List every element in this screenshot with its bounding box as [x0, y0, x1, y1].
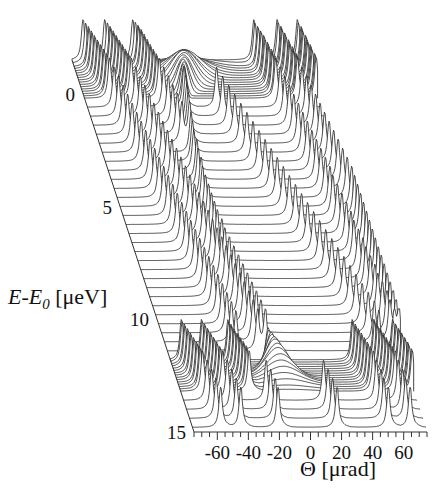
theta-axis-title: Θ [μrad] — [300, 456, 376, 481]
energy-tick-label: 10 — [130, 309, 149, 330]
energy-axis-title-main: E-E — [7, 284, 43, 309]
theta-tick-label: 60 — [394, 442, 413, 463]
theta-tick-label: -60 — [205, 442, 230, 463]
energy-axis-title: E-E0 [μeV] — [7, 284, 107, 312]
trace-group — [72, 20, 426, 428]
theta-tick-label: -40 — [236, 442, 261, 463]
theta-tick-label: -20 — [267, 442, 292, 463]
trace-E-9.4 — [153, 264, 386, 306]
energy-tick-label: 5 — [103, 197, 113, 218]
energy-tick-label: 15 — [167, 422, 186, 443]
waterfall-chart: -60-40-200204060 051015 Θ [μrad] E-E0 [μ… — [0, 0, 442, 495]
energy-tick-label: 0 — [66, 84, 76, 105]
trace-E-7.4 — [138, 219, 371, 261]
energy-axis-title-unit: [μeV] — [50, 284, 108, 309]
trace-E-8.2 — [144, 237, 377, 279]
